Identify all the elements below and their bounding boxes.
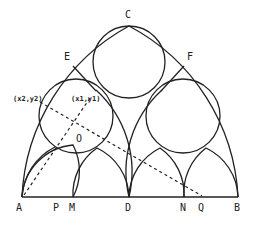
label-p2: (x2,y2) <box>13 95 43 103</box>
label-O: O <box>76 133 82 144</box>
label-N: N <box>180 202 186 213</box>
label-B: B <box>234 202 240 213</box>
dashed-line-p2-to-Q <box>40 102 202 196</box>
subarch-A-left <box>22 147 55 197</box>
arch-diagram: C E F (x2,y2) (x1,y1) O A P M D N Q B <box>0 0 256 225</box>
label-p1: (x1,y1) <box>71 95 101 103</box>
subarch-MD <box>73 148 129 197</box>
label-P: P <box>53 202 59 213</box>
label-M: M <box>69 202 75 213</box>
label-F: F <box>187 51 193 62</box>
outer-arc-right <box>129 26 238 197</box>
label-A: A <box>16 202 22 213</box>
label-E: E <box>64 51 70 62</box>
label-C: C <box>125 9 131 20</box>
label-D: D <box>125 202 131 213</box>
top-circle <box>93 26 165 98</box>
subarch-DN <box>129 148 184 197</box>
right-circle <box>146 79 220 153</box>
label-Q: Q <box>198 202 204 213</box>
